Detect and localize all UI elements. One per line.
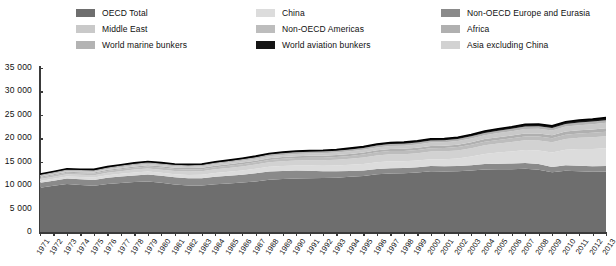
x-axis-label-1978: 1978 [129,237,146,256]
x-axis-tick-mark [566,232,567,236]
legend-swatch-non_oecd_americas [256,25,275,33]
x-axis-labels: 1971197219731974197519761977197819791980… [0,56,616,266]
legend-swatch-oecd_total [76,9,95,17]
legend-label-world_aviation_bunkers: World aviation bunkers [282,41,371,50]
x-axis-tick-mark [296,232,297,236]
x-axis-label-2003: 2003 [466,237,483,256]
x-axis-label-1976: 1976 [102,237,119,256]
legend-item-world_aviation_bunkers[interactable]: World aviation bunkers [256,38,371,52]
legend-swatch-world_marine_bunkers [76,41,95,49]
x-axis-label-1986: 1986 [236,237,253,256]
legend-label-non_oecd_europe_eurasia: Non-OECD Europe and Eurasia [467,9,590,18]
x-axis-tick-mark [417,232,418,236]
x-axis-tick-mark [458,232,459,236]
legend-swatch-china [256,9,275,17]
x-axis-tick-mark [404,232,405,236]
x-axis-tick-mark [323,232,324,236]
x-axis-label-1980: 1980 [156,237,173,256]
x-axis-label-2001: 2001 [439,237,456,256]
x-axis-label-1985: 1985 [223,237,240,256]
x-axis-label-2002: 2002 [452,237,469,256]
x-axis-label-1998: 1998 [398,237,415,256]
x-axis-label-2004: 2004 [479,237,496,256]
legend-column-3: Non-OECD Europe and EurasiaAfricaAsia ex… [441,6,590,54]
legend-swatch-non_oecd_europe_eurasia [441,9,460,17]
x-axis-tick-mark [350,232,351,236]
x-axis-label-1977: 1977 [115,237,132,256]
x-axis-tick-mark [188,232,189,236]
legend-item-middle_east[interactable]: Middle East [76,22,187,36]
legend-item-china[interactable]: China [256,6,371,20]
x-axis-tick-mark [512,232,513,236]
x-axis-tick-mark [593,232,594,236]
x-axis-tick-mark [256,232,257,236]
x-axis-tick-mark [202,232,203,236]
x-axis-tick-mark [80,232,81,236]
x-axis-tick-mark [283,232,284,236]
x-axis-label-1972: 1972 [48,237,65,256]
legend-label-oecd_total: OECD Total [102,9,148,18]
x-axis-label-2011: 2011 [574,237,591,256]
x-axis-tick-mark [107,232,108,236]
x-axis-label-1983: 1983 [196,237,213,256]
legend-item-asia_excluding_china[interactable]: Asia excluding China [441,38,590,52]
x-axis-label-2005: 2005 [493,237,510,256]
x-axis-label-1995: 1995 [358,237,375,256]
x-axis-label-1981: 1981 [169,237,186,256]
legend-label-africa: Africa [467,25,489,34]
legend-item-non_oecd_americas[interactable]: Non-OECD Americas [256,22,371,36]
legend-item-oecd_total[interactable]: OECD Total [76,6,187,20]
x-axis-label-2007: 2007 [519,237,536,256]
x-axis-label-1989: 1989 [277,237,294,256]
x-axis-tick-mark [242,232,243,236]
x-axis-tick-mark [67,232,68,236]
legend-column-1: OECD TotalMiddle EastWorld marine bunker… [76,6,187,54]
x-axis-tick-mark [121,232,122,236]
x-axis-tick-mark [175,232,176,236]
x-axis-label-1984: 1984 [210,237,227,256]
legend-item-africa[interactable]: Africa [441,22,590,36]
x-axis-tick-mark [134,232,135,236]
x-axis-label-1996: 1996 [371,237,388,256]
stacked-area-chart: 05 00010 00015 00020 00025 00030 00035 0… [0,56,616,266]
x-axis-tick-mark [53,232,54,236]
x-axis-label-2008: 2008 [533,237,550,256]
x-axis-label-1999: 1999 [412,237,429,256]
x-axis-tick-mark [215,232,216,236]
x-axis-tick-mark [539,232,540,236]
x-axis-label-2000: 2000 [425,237,442,256]
legend-column-2: ChinaNon-OECD AmericasWorld aviation bun… [256,6,371,54]
legend-item-non_oecd_europe_eurasia[interactable]: Non-OECD Europe and Eurasia [441,6,590,20]
x-axis-tick-mark [363,232,364,236]
x-axis-label-1990: 1990 [290,237,307,256]
x-axis-label-1974: 1974 [75,237,92,256]
legend-label-non_oecd_americas: Non-OECD Americas [282,25,364,34]
x-axis-tick-mark [485,232,486,236]
x-axis-tick-mark [525,232,526,236]
x-axis-tick-mark [161,232,162,236]
legend-label-china: China [282,9,305,18]
x-axis-tick-mark [471,232,472,236]
x-axis-label-2009: 2009 [546,237,563,256]
x-axis-label-1975: 1975 [88,237,105,256]
legend-item-world_marine_bunkers[interactable]: World marine bunkers [76,38,187,52]
legend-swatch-world_aviation_bunkers [256,41,275,49]
x-axis-label-1997: 1997 [385,237,402,256]
legend-label-middle_east: Middle East [102,25,148,34]
x-axis-label-1991: 1991 [304,237,321,256]
x-axis-tick-mark [579,232,580,236]
x-axis-tick-mark [390,232,391,236]
x-axis-tick-mark [269,232,270,236]
x-axis-tick-mark [431,232,432,236]
x-axis-tick-mark [40,232,41,236]
x-axis-label-1987: 1987 [250,237,267,256]
x-axis-tick-mark [229,232,230,236]
x-axis-tick-mark [498,232,499,236]
x-axis-tick-mark [606,232,607,236]
x-axis-label-1979: 1979 [142,237,159,256]
legend-swatch-middle_east [76,25,95,33]
x-axis-tick-mark [552,232,553,236]
chart-legend: OECD TotalMiddle EastWorld marine bunker… [0,6,616,52]
x-axis-tick-mark [148,232,149,236]
x-axis-label-1988: 1988 [263,237,280,256]
